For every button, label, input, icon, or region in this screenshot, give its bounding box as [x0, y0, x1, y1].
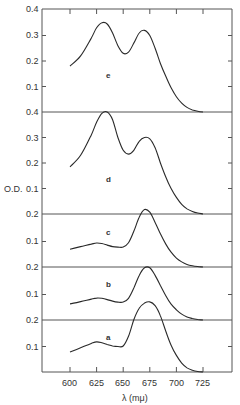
- panel-label-b: b: [106, 280, 111, 289]
- y-tick-e-0.1: 0.1: [26, 82, 39, 92]
- spectrum-curve-e: [70, 22, 203, 112]
- panel-label-a: a: [106, 333, 111, 342]
- y-tick-d-0.4: 0.4: [26, 107, 39, 117]
- x-tick-700: 700: [169, 378, 184, 388]
- y-tick-d-0.1: 0.1: [26, 184, 39, 194]
- y-tick-e-0.3: 0.3: [26, 30, 39, 40]
- y-tick-b-0.1: 0.1: [26, 289, 39, 299]
- y-axis-title: O.D.: [4, 184, 23, 194]
- y-tick-d-0.2: 0.2: [26, 158, 39, 168]
- y-tick-a-0.2: 0.2: [26, 315, 39, 325]
- y-tick-a-0.1: 0.1: [26, 342, 39, 352]
- x-tick-725: 725: [195, 378, 210, 388]
- x-tick-675: 675: [142, 378, 157, 388]
- x-tick-625: 625: [89, 378, 104, 388]
- spectrum-curve-a: [70, 302, 203, 372]
- y-tick-e-0.2: 0.2: [26, 56, 39, 66]
- y-tick-e-0.4: 0.4: [26, 4, 39, 14]
- y-tick-c-0.2: 0.2: [26, 209, 39, 219]
- y-tick-d-0.3: 0.3: [26, 133, 39, 143]
- panel-label-d: d: [106, 175, 111, 184]
- x-axis-title: λ (mμ): [122, 393, 148, 403]
- panel-label-c: c: [106, 228, 111, 237]
- spectrum-curve-b: [70, 267, 203, 320]
- y-tick-c-0.1: 0.1: [26, 236, 39, 246]
- x-tick-650: 650: [115, 378, 130, 388]
- panel-label-e: e: [106, 71, 111, 80]
- spectrum-curve-d: [70, 111, 203, 214]
- x-tick-600: 600: [62, 378, 77, 388]
- y-tick-b-0.2: 0.2: [26, 262, 39, 272]
- spectrum-curve-c: [70, 209, 203, 267]
- absorption-spectra-chart: 0.4 0.3 0.2 0.1 0.4 0.3 0.2 0.1 0.2 0.1 …: [0, 0, 240, 405]
- tick-marks: [42, 9, 232, 372]
